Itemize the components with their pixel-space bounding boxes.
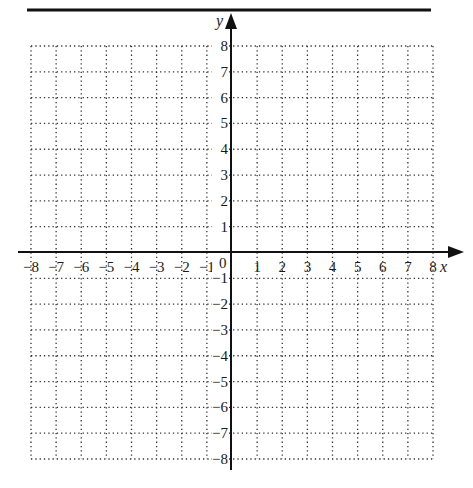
x-tick-label: 3 <box>304 259 312 275</box>
x-tick-label: −3 <box>149 259 165 275</box>
x-tick-label: −4 <box>124 259 140 275</box>
x-tick-label: −7 <box>48 259 64 275</box>
x-tick-label: 5 <box>354 259 362 275</box>
y-tick-label: −8 <box>212 451 228 467</box>
x-tick-label: 7 <box>404 259 412 275</box>
x-tick-label: −6 <box>73 259 89 275</box>
y-tick-label: 4 <box>221 141 229 157</box>
y-tick-label: −3 <box>212 322 228 338</box>
x-tick-label: 2 <box>279 259 287 275</box>
y-tick-label: −2 <box>212 296 228 312</box>
y-tick-label: −1 <box>212 270 228 286</box>
x-tick-label: 4 <box>329 259 337 275</box>
y-tick-label: −7 <box>212 425 228 441</box>
y-tick-label: 8 <box>221 38 229 54</box>
x-tick-label: 8 <box>429 259 437 275</box>
coordinate-plane: −8−7−6−5−4−3−2−11234567887654321−1−2−3−4… <box>0 0 473 488</box>
x-axis-label: x <box>439 258 447 275</box>
y-axis-arrow-icon <box>225 13 237 29</box>
y-tick-label: 5 <box>221 115 229 131</box>
y-tick-label: −6 <box>212 399 228 415</box>
y-tick-label: −4 <box>212 348 228 364</box>
x-tick-label: 6 <box>379 259 387 275</box>
x-tick-label: −2 <box>174 259 190 275</box>
x-axis-arrow-icon <box>448 246 464 258</box>
y-tick-label: 3 <box>221 167 229 183</box>
y-tick-label: −5 <box>212 374 228 390</box>
x-tick-label: −5 <box>98 259 114 275</box>
y-tick-label: 1 <box>221 219 229 235</box>
x-tick-label: −8 <box>23 259 39 275</box>
x-tick-label: 1 <box>253 259 261 275</box>
y-tick-label: 6 <box>221 90 229 106</box>
origin-label: 0 <box>219 255 227 271</box>
axes <box>18 13 464 470</box>
y-tick-label: 2 <box>221 193 229 209</box>
y-axis-label: y <box>214 12 224 30</box>
y-tick-label: 7 <box>221 64 229 80</box>
